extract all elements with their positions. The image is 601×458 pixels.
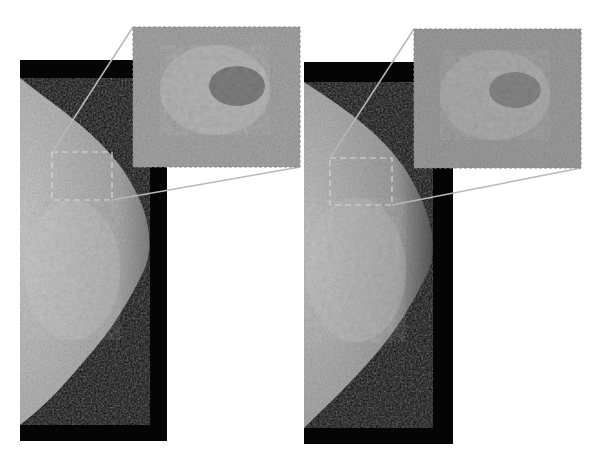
mammogram-left [20,27,300,441]
zoom-inset-left [133,27,300,167]
dense-region-left [24,200,120,340]
lesion-left [209,66,265,106]
figure [0,0,601,458]
dense-region-right [306,198,406,342]
lesion-right [489,72,541,108]
zoom-inset-right [414,29,581,168]
mammogram-right [304,29,581,444]
